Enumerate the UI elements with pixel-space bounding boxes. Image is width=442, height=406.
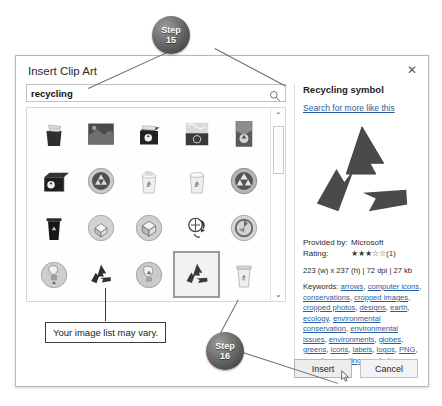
callout-step-16-line2: 16	[220, 351, 230, 361]
keyword-separator: ,	[350, 293, 352, 302]
keyword-link[interactable]: earth	[390, 303, 407, 312]
keyword-separator: ,	[363, 282, 365, 291]
thumbnail-item[interactable]	[220, 205, 268, 252]
keyword-link[interactable]: environments	[329, 335, 375, 344]
keyword-link[interactable]: computer icons	[368, 282, 420, 291]
keyword-separator: ,	[407, 303, 409, 312]
thumbnail-item[interactable]	[173, 205, 221, 252]
thumbnail-item[interactable]	[78, 251, 126, 298]
thumbnail-item[interactable]	[173, 158, 221, 205]
keywords-label: Keywords:	[303, 282, 338, 291]
thumbnail-item[interactable]	[30, 251, 78, 298]
keyword-separator: ,	[348, 345, 350, 354]
rating-label: Rating:	[303, 248, 351, 259]
thumbnail-item[interactable]	[125, 251, 173, 298]
keyword-link[interactable]: ecology	[303, 314, 329, 323]
keyword-separator: ,	[415, 345, 417, 354]
keywords-block: Keywords: arrows, computer icons, conser…	[303, 282, 423, 366]
search-input[interactable]	[31, 87, 256, 100]
thumbnail-item[interactable]	[78, 205, 126, 252]
keyword-separator: ,	[374, 335, 376, 344]
thumbnail-item[interactable]	[30, 205, 78, 252]
thumbnail-item[interactable]	[125, 205, 173, 252]
preview-pane: Recycling symbol Search for more like th…	[294, 84, 429, 376]
keyword-separator: ,	[419, 282, 421, 291]
keyword-separator: ,	[372, 345, 374, 354]
callout-step-16-line1: Step	[215, 341, 235, 351]
scrollbar-thumb[interactable]	[273, 126, 284, 174]
keyword-link[interactable]: arrows	[341, 282, 364, 291]
keyword-separator: ,	[408, 293, 410, 302]
keyword-separator: ,	[346, 324, 348, 333]
preview-image-recycling-symbol	[303, 119, 421, 231]
image-dimensions: 223 (w) x 237 (h) | 72 dpi | 27 kb	[303, 265, 429, 276]
search-more-like-this-link[interactable]: Search for more like this	[303, 103, 395, 113]
thumbnail-item[interactable]	[30, 111, 78, 158]
thumbnail-item[interactable]	[220, 111, 268, 158]
keyword-separator: ,	[325, 335, 327, 344]
keyword-link[interactable]: labels	[352, 345, 372, 354]
provided-by-label: Provided by:	[303, 237, 351, 248]
thumbnail-item-selected[interactable]	[173, 251, 221, 298]
provided-by-value: Microsoft	[351, 237, 429, 248]
note-stem	[105, 288, 106, 321]
callout-step-15: Step 15	[152, 16, 190, 54]
preview-title: Recycling symbol	[303, 84, 429, 95]
thumbnail-item[interactable]	[220, 251, 268, 298]
thumbnail-item[interactable]	[173, 111, 221, 158]
rating-row: Rating: ★★★☆☆(1)	[303, 248, 429, 259]
search-icon[interactable]	[269, 88, 281, 100]
search-bar	[26, 84, 286, 102]
keyword-link[interactable]: cropped images	[354, 293, 408, 302]
insert-button[interactable]: Insert	[294, 359, 352, 378]
keyword-link[interactable]: PNG	[399, 345, 415, 354]
keyword-link[interactable]: icons	[330, 345, 348, 354]
dialog-title: Insert Clip Art	[28, 65, 97, 77]
cancel-button[interactable]: Cancel	[360, 359, 418, 378]
provided-by-row: Provided by: Microsoft	[303, 237, 429, 248]
keyword-separator: ,	[329, 314, 331, 323]
thumbnail-item[interactable]	[78, 158, 126, 205]
keyword-link[interactable]: greens	[303, 345, 326, 354]
keyword-separator: ,	[395, 345, 397, 354]
thumbnail-item[interactable]	[30, 158, 78, 205]
rating-stars[interactable]: ★★★☆☆(1)	[351, 248, 429, 259]
thumbnail-grid	[30, 111, 268, 298]
scroll-down-icon[interactable]: ⌄	[271, 287, 286, 301]
thumbnail-item[interactable]	[78, 111, 126, 158]
note-image-list-may-vary: Your image list may vary.	[45, 322, 166, 343]
thumbnail-scrollbar[interactable]: ⌃ ⌄	[270, 108, 285, 301]
thumbnail-item[interactable]	[125, 158, 173, 205]
keyword-link[interactable]: globes	[379, 335, 401, 344]
close-icon[interactable]: ✕	[404, 62, 420, 78]
thumbnail-panel: ⌃ ⌄	[26, 107, 286, 302]
thumbnail-item[interactable]	[125, 111, 173, 158]
scroll-up-icon[interactable]: ⌃	[271, 108, 286, 122]
keyword-link[interactable]: designs	[360, 303, 386, 312]
callout-step-16: Step 16	[206, 332, 244, 370]
callout-step-15-line1: Step	[161, 25, 181, 35]
keywords-list: arrows, computer icons, conservations, c…	[303, 282, 421, 365]
callout-step-15-line2: 15	[166, 35, 176, 45]
keyword-link[interactable]: logos	[377, 345, 395, 354]
keyword-separator: ,	[326, 345, 328, 354]
keyword-separator: ,	[355, 303, 357, 312]
keyword-separator: ,	[386, 303, 388, 312]
keyword-link[interactable]: conservations	[303, 293, 350, 302]
keyword-separator: ,	[401, 335, 403, 344]
thumbnail-item[interactable]	[220, 158, 268, 205]
keyword-link[interactable]: cropped photos	[303, 303, 355, 312]
